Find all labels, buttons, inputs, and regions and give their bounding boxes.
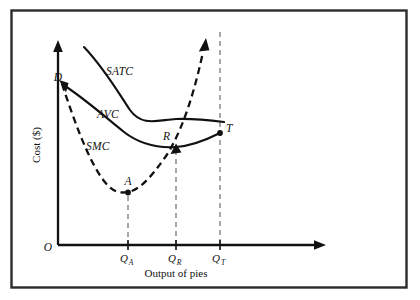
point-label-a: A xyxy=(123,175,132,187)
curve-label-avc: AVC xyxy=(96,108,119,120)
tick-label-qa: Q A xyxy=(120,252,134,267)
point-label-t: T xyxy=(226,122,234,134)
point-label-r: R xyxy=(162,130,170,142)
curve-avc xyxy=(62,84,220,147)
point-marker-a xyxy=(125,190,131,196)
x-axis-title: Output of pies xyxy=(145,267,208,279)
smc-arrow-icon xyxy=(199,38,210,52)
tick-label-qt-sub: T xyxy=(221,258,226,267)
tick-label-qa-sub: A xyxy=(128,258,134,267)
y-axis-title: Cost ($) xyxy=(30,127,43,163)
origin-label: O xyxy=(44,241,53,253)
cost-curve-figure: SATC AVC SMC D A R T O Q A Q R Q T Outpu… xyxy=(0,0,420,300)
tick-label-qt-main: Q xyxy=(212,252,220,264)
guide-lines-group xyxy=(128,32,220,243)
tick-label-qr-main: Q xyxy=(168,252,176,264)
y-axis-arrow-icon xyxy=(53,40,63,52)
curve-label-satc: SATC xyxy=(106,65,133,77)
tick-label-qa-main: Q xyxy=(120,252,128,264)
tick-label-qt: Q T xyxy=(212,252,226,267)
point-label-d: D xyxy=(53,71,63,83)
point-marker-t xyxy=(217,130,223,136)
cost-curve-diagram: SATC AVC SMC D A R T O Q A Q R Q T Outpu… xyxy=(0,0,420,300)
curve-label-smc: SMC xyxy=(86,140,110,152)
tick-label-qr: Q R xyxy=(168,252,182,267)
x-axis-arrow-icon xyxy=(314,240,326,250)
tick-label-qr-sub: R xyxy=(176,258,182,267)
